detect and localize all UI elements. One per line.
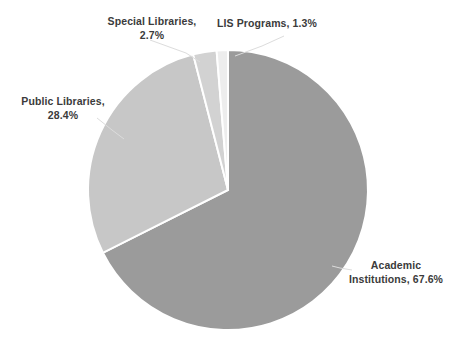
pie-slices — [88, 50, 368, 330]
pie-label-public-libraries: Public Libraries, 28.4% — [8, 94, 118, 122]
pie-chart-canvas — [0, 0, 455, 345]
pie-chart-figure: Special Libraries, 2.7% LIS Programs, 1.… — [0, 0, 455, 345]
pie-label-lis-programs: LIS Programs, 1.3% — [205, 16, 329, 30]
pie-label-academic-institutions: Academic Institutions, 67.6% — [338, 258, 454, 286]
pie-label-special-libraries: Special Libraries, 2.7% — [88, 14, 216, 42]
